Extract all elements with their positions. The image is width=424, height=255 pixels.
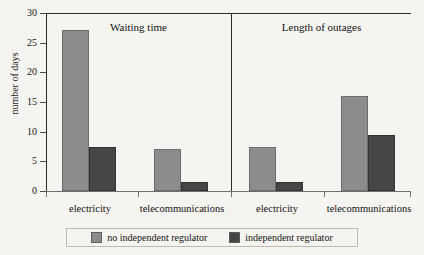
chart-figure: number of days 0 5 10 15 20 25 30 Waitin… xyxy=(0,0,424,255)
x-tick-p0-start xyxy=(46,191,47,197)
x-tick-p1-end xyxy=(410,191,411,197)
legend-label-no-independent-regulator: no independent regulator xyxy=(107,232,207,243)
legend-swatch-icon-no-independent-regulator xyxy=(91,232,102,243)
x-tick-p1-start xyxy=(231,191,232,197)
bar-p1-telecom-no-regulator xyxy=(341,96,368,191)
panel-divider xyxy=(231,13,232,192)
bar-p0-electricity-no-regulator xyxy=(62,30,89,191)
axis-top xyxy=(46,13,411,14)
y-tick-5 xyxy=(40,161,46,162)
bar-p1-electricity-no-regulator xyxy=(249,147,276,192)
y-tick-30 xyxy=(40,13,46,14)
y-tick-label-10: 10 xyxy=(27,127,37,137)
y-tick-label-0: 0 xyxy=(32,186,37,196)
plot-area: 0 5 10 15 20 25 30 Waiting time Length o… xyxy=(46,13,411,191)
legend-item-no-independent-regulator: no independent regulator xyxy=(91,232,207,243)
bar-p0-telecom-regulator xyxy=(181,182,208,191)
x-label-p1-electricity: electricity xyxy=(256,203,298,214)
y-tick-20 xyxy=(40,72,46,73)
axis-left xyxy=(46,13,47,192)
y-axis-title: number of days xyxy=(9,24,20,144)
y-tick-25 xyxy=(40,43,46,44)
bar-p0-telecom-no-regulator xyxy=(154,149,181,191)
y-tick-label-15: 15 xyxy=(27,97,37,107)
chart-legend: no independent regulator independent reg… xyxy=(66,228,358,247)
legend-item-independent-regulator: independent regulator xyxy=(229,232,332,243)
bar-p0-electricity-regulator xyxy=(89,147,116,191)
x-tick-p0-mid xyxy=(138,191,139,197)
y-tick-label-5: 5 xyxy=(32,156,37,166)
y-tick-label-30: 30 xyxy=(27,8,37,18)
y-tick-label-20: 20 xyxy=(27,67,37,77)
x-label-p0-electricity: electricity xyxy=(69,203,111,214)
x-tick-p1-mid xyxy=(324,191,325,197)
axis-bottom xyxy=(40,191,411,192)
y-tick-10 xyxy=(40,132,46,133)
y-tick-15 xyxy=(40,102,46,103)
x-label-p0-telecommunications: telecommunications xyxy=(140,203,225,214)
x-label-p1-telecommunications: telecommunications xyxy=(327,203,412,214)
panel-title-length-of-outages: Length of outages xyxy=(232,21,411,33)
legend-swatch-icon-independent-regulator xyxy=(229,232,240,243)
y-tick-label-25: 25 xyxy=(27,38,37,48)
bar-p1-electricity-regulator xyxy=(276,182,303,191)
legend-label-independent-regulator: independent regulator xyxy=(245,232,332,243)
bar-p1-telecom-regulator xyxy=(368,135,395,191)
